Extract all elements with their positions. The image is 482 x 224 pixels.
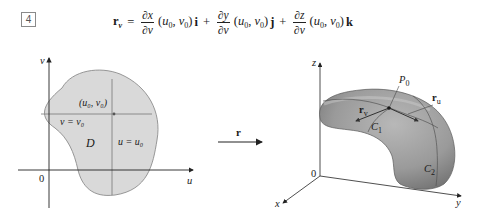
point-u0-v0	[113, 113, 116, 116]
line-v-label: v = v₀	[60, 116, 84, 127]
region-D-label: D	[86, 136, 95, 151]
domain-region-D	[45, 70, 158, 195]
u-axis-label: u	[187, 175, 192, 186]
x-axis-label: x	[275, 198, 280, 209]
z-axis-label: z	[312, 57, 316, 68]
origin-label-right: 0	[311, 168, 316, 179]
tangent-ru-label: ru	[432, 92, 441, 106]
tangent-rv-label: rv	[359, 104, 368, 118]
curve-C2-label: C2	[424, 163, 435, 177]
curve-C1-label: C1	[371, 121, 382, 135]
v-axis-label: v	[40, 55, 45, 66]
point-u0-v0-label: (u₀, v₀)	[79, 97, 107, 108]
y-axis-label: y	[456, 197, 461, 208]
mapping-arrow-label: r	[236, 126, 241, 138]
origin-label-left: 0	[39, 173, 44, 184]
line-u-label: u = u₀	[118, 136, 143, 147]
point-P0-label: P0	[399, 74, 409, 88]
diagram-canvas	[0, 0, 482, 224]
x-axis	[283, 176, 320, 203]
